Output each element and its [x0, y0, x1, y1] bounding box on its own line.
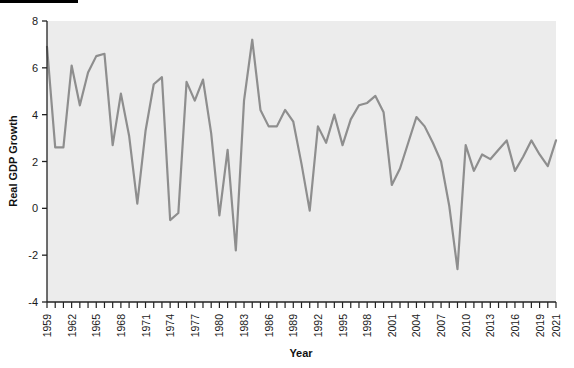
y-axis-title: Real GDP Growth: [7, 115, 19, 207]
y-tick-label: -4: [28, 296, 38, 308]
x-tick-label: 2004: [410, 314, 422, 338]
chart-svg: 86420-2-4 195919621965196819711974197719…: [0, 0, 574, 368]
y-tick-label: 6: [32, 62, 38, 74]
x-tick-label: 1971: [140, 314, 152, 338]
x-tick-label: 1962: [66, 314, 78, 338]
x-tick-label: 2013: [484, 314, 496, 338]
real-gdp-growth-line-chart: 86420-2-4 195919621965196819711974197719…: [0, 0, 574, 368]
y-axis-ticks: 86420-2-4: [28, 15, 47, 308]
y-tick-label: -2: [28, 249, 38, 261]
x-tick-label: 1980: [213, 314, 225, 338]
x-tick-label: 1959: [41, 314, 53, 338]
x-axis-ticks: [47, 302, 556, 308]
x-tick-label: 1977: [189, 314, 201, 338]
x-axis-title: Year: [289, 347, 313, 359]
x-tick-label: 2016: [509, 314, 521, 338]
x-tick-label: 1992: [312, 314, 324, 338]
y-tick-label: 8: [32, 15, 38, 27]
x-tick-label: 1995: [337, 314, 349, 338]
x-tick-label: 2001: [386, 314, 398, 338]
x-tick-label: 2007: [435, 314, 447, 338]
y-tick-label: 2: [32, 156, 38, 168]
x-tick-label: 1983: [238, 314, 250, 338]
x-tick-label: 2021: [550, 314, 562, 338]
x-axis-tick-labels: 1959196219651968197119741977198019831986…: [41, 314, 562, 338]
x-tick-label: 1986: [263, 314, 275, 338]
x-tick-label: 1965: [90, 314, 102, 338]
x-tick-label: 1989: [287, 314, 299, 338]
x-tick-label: 2010: [460, 314, 472, 338]
x-tick-label: 1998: [361, 314, 373, 338]
x-tick-label: 2019: [534, 314, 546, 338]
y-tick-label: 4: [32, 109, 38, 121]
x-tick-label: 1968: [115, 314, 127, 338]
y-tick-label: 0: [32, 202, 38, 214]
x-tick-label: 1974: [164, 314, 176, 338]
